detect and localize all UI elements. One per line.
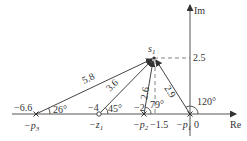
length-label-z1: 3.6 — [104, 77, 121, 94]
name-label-p2: −p2 — [133, 119, 149, 132]
name-label-p1: −p1 — [176, 119, 191, 132]
length-label-p1: 2.9 — [162, 83, 178, 99]
real-projection-label: −1.5 — [150, 119, 168, 130]
angle-label-p2: 79° — [150, 99, 164, 110]
name-label-z1: −z1 — [89, 119, 103, 132]
value-label-z1: −4 — [88, 102, 99, 113]
test-point-s1 — [152, 56, 155, 59]
pole-zero-diagram: Re Im 0 2.5 −1.5 s1 5.8 3.6 2.6 2.9 26° … — [0, 0, 247, 141]
value-label-p3: −6.6 — [14, 102, 32, 113]
test-point-label: s1 — [148, 43, 155, 56]
origin-label: 0 — [194, 119, 199, 130]
angle-arc-p3 — [49, 108, 50, 114]
value-label-p2: −2 — [134, 102, 145, 113]
real-axis-label: Re — [230, 119, 242, 130]
angle-label-p1: 120° — [197, 96, 216, 107]
name-label-p3: −p3 — [24, 120, 40, 133]
imag-axis-label: Im — [194, 5, 205, 16]
length-label-p3: 5.8 — [80, 71, 96, 86]
angle-label-p3: 26° — [53, 104, 67, 115]
imag-value-label: 2.5 — [193, 52, 206, 63]
angle-label-z1: 45° — [108, 103, 122, 114]
